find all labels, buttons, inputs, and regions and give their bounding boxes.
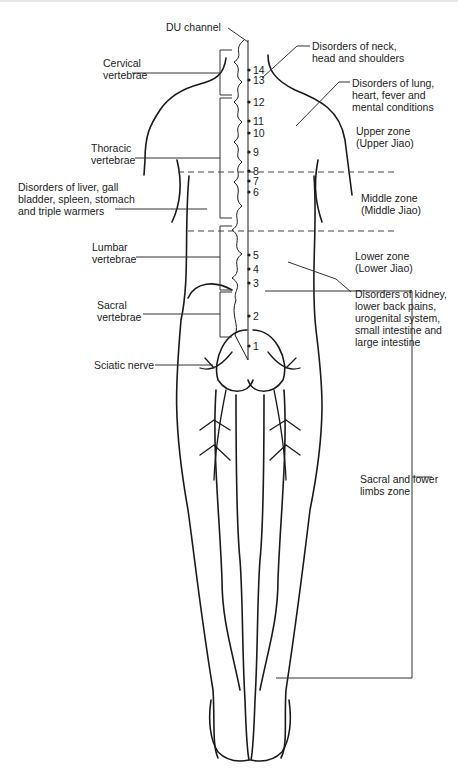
- left-flank-outline: [172, 160, 180, 222]
- kidney-leader: [288, 262, 351, 292]
- label-middle-zone: Middle zone (Middle Jiao): [361, 192, 421, 216]
- right-flank-outline: [315, 160, 322, 222]
- right-foot: [251, 700, 290, 761]
- label-upper-zone: Upper zone (Upper Jiao): [356, 125, 414, 149]
- label-du-channel: DU channel: [166, 21, 221, 33]
- label-lower-zone: Lower zone (Lower Jiao): [355, 250, 413, 274]
- spine-point-12: 12: [253, 97, 265, 108]
- lumbar-bracket: [220, 226, 232, 290]
- label-lung-disorders: Disorders of lung, heart, fever and ment…: [352, 77, 434, 113]
- body-diagram: [0, 0, 458, 771]
- spine-point-10: 10: [253, 128, 265, 139]
- label-sciatic-nerve: Sciatic nerve: [94, 359, 154, 371]
- right-side-outline: [281, 176, 322, 758]
- hip-curve-left: [188, 284, 232, 298]
- spine-point-4: 4: [253, 264, 259, 275]
- spine: [232, 40, 248, 360]
- right-inner-leg: [251, 395, 264, 760]
- du-leader: [228, 28, 248, 42]
- thoracic-bracket: [220, 98, 232, 218]
- label-neck-disorders: Disorders of neck, head and shoulders: [312, 40, 404, 64]
- right-shoulder-outline: [268, 55, 352, 195]
- label-kidney-disorders: Disorders of kidney, lower back pains, u…: [355, 288, 447, 348]
- spine-point-11: 11: [253, 116, 264, 127]
- left-shoulder-outline: [144, 58, 226, 175]
- label-sacral-vertebrae: Sacral vertebrae: [97, 299, 141, 323]
- spine-point-6: 6: [253, 187, 259, 198]
- label-liver-disorders: Disorders of liver, gall bladder, spleen…: [18, 181, 135, 217]
- spine-point-5: 5: [253, 250, 259, 261]
- spine-point-9: 9: [253, 147, 259, 158]
- spine-point-1: 1: [253, 341, 259, 352]
- spine-point-2: 2: [253, 311, 259, 322]
- label-sacral-limbs-zone: Sacral and lower limbs zone: [360, 473, 438, 497]
- label-lumbar-vertebrae: Lumbar vertebrae: [92, 241, 136, 265]
- label-thoracic-vertebrae: Thoracic vertebrae: [91, 142, 135, 166]
- left-side-outline: [177, 176, 218, 758]
- sacral-bracket: [220, 292, 232, 337]
- spine-point-3: 3: [253, 278, 259, 289]
- spine-point-13: 13: [253, 75, 265, 86]
- left-inner-leg: [236, 395, 249, 760]
- label-cervical-vertebrae: Cervical vertebrae: [103, 57, 147, 81]
